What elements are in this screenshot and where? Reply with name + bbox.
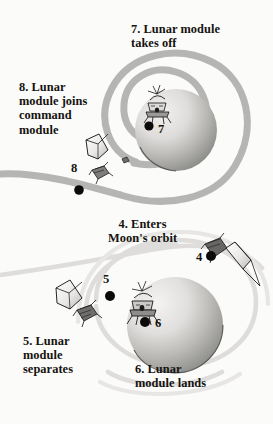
waypoint-dot-8 [74, 185, 84, 195]
lunar-module-upper-icon [89, 162, 113, 184]
marker-label-7: 7 [158, 122, 164, 137]
marker-label-8: 8 [71, 161, 77, 176]
marker-label-6: 6 [155, 316, 161, 331]
waypoint-dot-5 [105, 291, 115, 301]
waypoint-dot-7 [144, 121, 153, 130]
marker-label-5: 5 [103, 272, 109, 287]
waypoint-dot-6 [140, 317, 150, 327]
caption-step-5: 5. Lunar module separates [23, 334, 73, 377]
caption-step-7: 7. Lunar module takes off [131, 22, 220, 50]
command-module-upper-icon [86, 134, 108, 159]
caption-step-6: 6. Lunar module lands [135, 362, 206, 390]
marker-label-4: 4 [196, 250, 202, 265]
waypoint-dot-4 [206, 251, 216, 261]
lunar-mission-diagram: 7. Lunar module takes off 8. Lunar modul… [0, 0, 273, 424]
caption-step-4: 4. Enters Moon's orbit [108, 217, 177, 245]
caption-step-8: 8. Lunar module joins command module [19, 80, 87, 137]
